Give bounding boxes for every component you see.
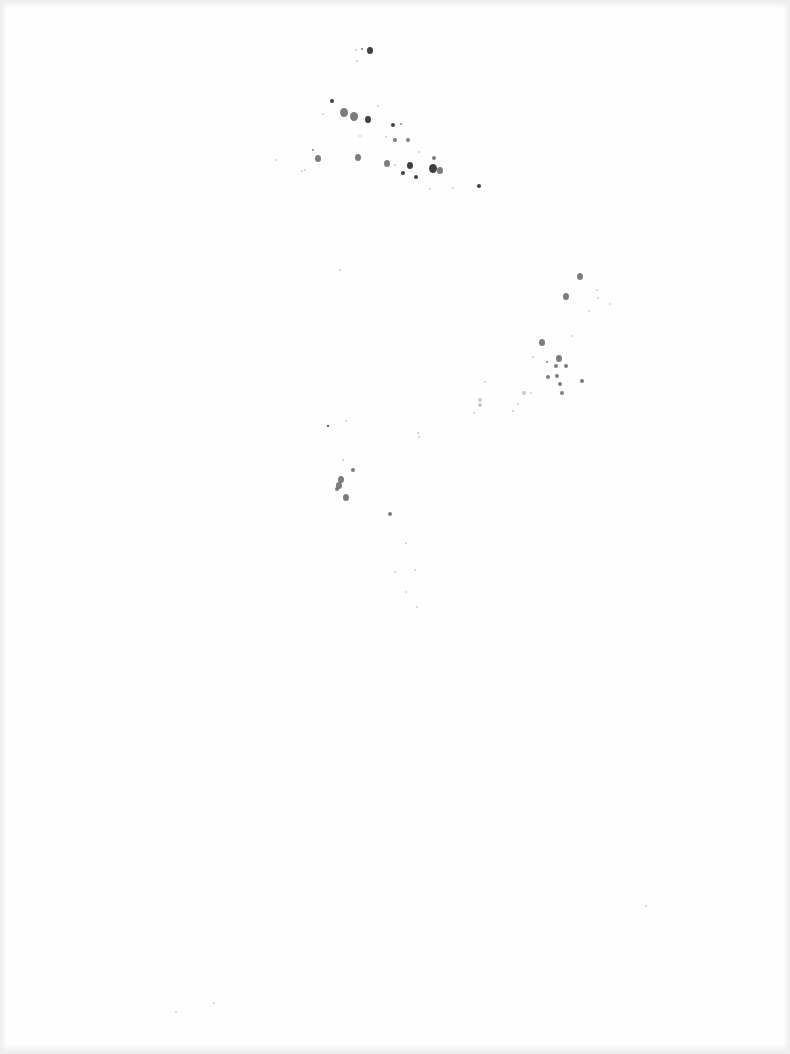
ink-speck <box>417 432 419 434</box>
ink-speck <box>414 175 418 179</box>
ink-speck <box>477 184 481 188</box>
ink-speck <box>312 149 314 151</box>
ink-speck <box>330 99 334 103</box>
ink-speck <box>401 171 405 175</box>
ink-speck <box>388 512 392 516</box>
ink-speck <box>609 303 611 305</box>
ink-speck <box>473 412 475 414</box>
ink-speck <box>343 494 349 501</box>
ink-speck <box>327 425 329 427</box>
ink-speck <box>405 591 407 593</box>
ink-speck <box>355 49 357 51</box>
ink-speck <box>564 364 568 368</box>
page-edge-bottom <box>0 1044 790 1054</box>
scanned-page <box>0 0 790 1054</box>
ink-speck <box>301 170 303 172</box>
ink-speck <box>558 382 562 386</box>
ink-speck <box>645 905 647 907</box>
ink-speck <box>213 1002 215 1004</box>
ink-speck <box>351 468 355 472</box>
ink-speck <box>384 160 390 167</box>
ink-speck <box>385 136 387 138</box>
ink-speck <box>429 188 431 190</box>
ink-speck <box>452 187 454 189</box>
ink-speck <box>414 569 416 571</box>
ink-speck <box>571 335 573 337</box>
ink-speck <box>393 138 397 142</box>
ink-speck <box>377 105 379 107</box>
ink-speck <box>437 167 443 174</box>
ink-speck <box>367 47 373 54</box>
ink-speck <box>340 108 348 117</box>
ink-speck <box>406 138 410 142</box>
ink-speck <box>350 112 358 121</box>
ink-speck <box>418 436 420 438</box>
ink-speck <box>391 123 395 127</box>
ink-speck <box>554 364 558 368</box>
ink-speck <box>532 356 534 358</box>
ink-speck <box>394 571 396 573</box>
ink-speck <box>175 1011 177 1013</box>
ink-speck <box>405 542 407 544</box>
ink-speck <box>555 374 559 378</box>
ink-speck <box>517 403 519 405</box>
ink-speck <box>304 169 306 171</box>
ink-speck <box>429 164 437 173</box>
ink-speck <box>355 154 361 161</box>
ink-speck <box>335 487 339 491</box>
ink-speck <box>484 381 486 383</box>
ink-speck <box>365 116 371 123</box>
page-edge-right <box>784 0 790 1054</box>
ink-speck <box>597 297 599 299</box>
ink-speck <box>407 162 413 169</box>
ink-speck <box>478 398 482 402</box>
ink-speck <box>546 361 548 363</box>
page-edge-top <box>0 0 790 8</box>
ink-speck <box>512 410 514 412</box>
ink-speck <box>546 375 550 379</box>
ink-speck <box>522 391 526 395</box>
ink-speck <box>563 293 569 300</box>
ink-speck <box>359 135 361 137</box>
ink-speck <box>275 159 277 161</box>
ink-speck <box>356 60 358 62</box>
ink-speck <box>394 164 396 166</box>
ink-speck <box>588 310 590 312</box>
ink-speck <box>530 392 532 394</box>
ink-speck <box>342 459 344 461</box>
ink-speck <box>580 379 584 383</box>
ink-speck <box>432 156 436 160</box>
ink-speck <box>322 113 324 115</box>
ink-speck <box>339 269 341 271</box>
ink-speck <box>560 391 564 395</box>
ink-speck <box>556 355 562 362</box>
ink-speck <box>577 273 583 280</box>
ink-speck <box>416 606 418 608</box>
ink-speck <box>400 123 402 125</box>
ink-speck <box>418 151 420 153</box>
ink-speck <box>345 420 347 422</box>
page-edge-left <box>0 0 6 1054</box>
ink-speck <box>596 289 598 291</box>
ink-speck <box>315 155 321 162</box>
ink-speck <box>478 403 482 407</box>
ink-speck <box>361 48 363 50</box>
ink-speck <box>539 339 545 346</box>
